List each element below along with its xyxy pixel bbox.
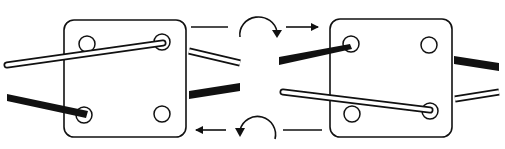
diagram-canvas [0, 0, 505, 149]
top-arrows [191, 17, 318, 38]
white-strand-mid-upper [189, 51, 240, 63]
hole-icon [344, 106, 360, 122]
black-strand-mid-lower [189, 83, 240, 99]
white-strand-right-outer [455, 92, 499, 99]
hole-icon [421, 37, 437, 53]
counterclockwise-rotation-icon [240, 116, 276, 139]
card-weaving-diagram [0, 0, 505, 149]
bottom-arrows [196, 116, 322, 139]
hole-icon [154, 106, 170, 122]
clockwise-rotation-icon [240, 17, 277, 37]
black-strand-right-outer [454, 56, 499, 71]
right-card [330, 19, 452, 137]
left-card [64, 20, 186, 137]
